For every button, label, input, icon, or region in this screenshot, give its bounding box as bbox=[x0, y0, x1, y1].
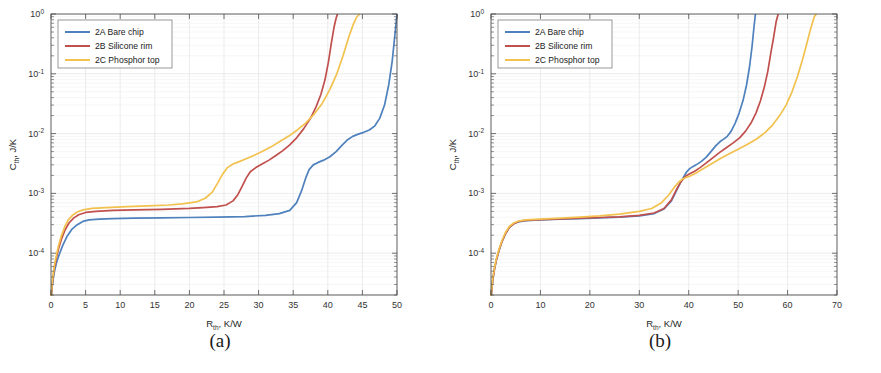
x-tick-label: 0 bbox=[48, 300, 53, 310]
x-axis-label: Rth, K/W bbox=[646, 318, 682, 331]
x-tick-label: 5 bbox=[83, 300, 88, 310]
top-mask bbox=[440, 0, 880, 14]
panel-a-caption: (a) bbox=[0, 330, 440, 352]
x-tick-label: 30 bbox=[634, 300, 644, 310]
x-tick-label: 0 bbox=[488, 300, 493, 310]
x-tick-label: 40 bbox=[684, 300, 694, 310]
figure-root: 0510152025303540455010-410-310-210-1100R… bbox=[0, 0, 881, 373]
y-tick-label: 10-4 bbox=[28, 247, 44, 258]
plot-a-container: 0510152025303540455010-410-310-210-1100R… bbox=[0, 0, 440, 335]
top-mask bbox=[0, 0, 440, 14]
x-tick-label: 20 bbox=[184, 300, 194, 310]
y-tick-label: 10-1 bbox=[468, 68, 484, 79]
x-tick-label: 60 bbox=[783, 300, 793, 310]
x-tick-label: 10 bbox=[115, 300, 125, 310]
y-tick-label: 100 bbox=[470, 8, 484, 19]
x-axis-label: Rth, K/W bbox=[206, 318, 242, 331]
x-tick-label: 45 bbox=[357, 300, 367, 310]
y-axis-label: Cth, J/K bbox=[447, 138, 460, 170]
panel-b: 01020304050607010-410-310-210-1100Rth, K… bbox=[440, 0, 880, 373]
x-tick-label: 10 bbox=[535, 300, 545, 310]
plot-a-svg: 0510152025303540455010-410-310-210-1100R… bbox=[0, 0, 440, 335]
x-tick-label: 30 bbox=[254, 300, 264, 310]
legend-label-3: 2C Phosphor top bbox=[535, 55, 600, 65]
legend-label-1: 2A Bare chip bbox=[535, 27, 584, 37]
y-axis-label: Cth, J/K bbox=[7, 138, 20, 170]
y-tick-label: 10-3 bbox=[28, 187, 44, 198]
x-tick-label: 40 bbox=[323, 300, 333, 310]
x-tick-label: 35 bbox=[288, 300, 298, 310]
panel-b-caption: (b) bbox=[440, 330, 880, 352]
plot-b-svg: 01020304050607010-410-310-210-1100Rth, K… bbox=[440, 0, 880, 335]
y-tick-label: 10-2 bbox=[28, 127, 44, 138]
legend: 2A Bare chip2B Silicone rim2C Phosphor t… bbox=[498, 20, 612, 68]
y-tick-label: 10-4 bbox=[468, 247, 484, 258]
x-tick-label: 50 bbox=[392, 300, 402, 310]
legend-label-3: 2C Phosphor top bbox=[95, 55, 160, 65]
x-tick-label: 25 bbox=[219, 300, 229, 310]
legend-label-2: 2B Silicone rim bbox=[95, 41, 152, 51]
x-tick-label: 15 bbox=[150, 300, 160, 310]
y-tick-label: 10-2 bbox=[468, 127, 484, 138]
x-tick-label: 50 bbox=[733, 300, 743, 310]
legend-label-2: 2B Silicone rim bbox=[535, 41, 592, 51]
x-tick-label: 20 bbox=[585, 300, 595, 310]
x-tick-label: 70 bbox=[832, 300, 842, 310]
legend: 2A Bare chip2B Silicone rim2C Phosphor t… bbox=[58, 20, 172, 68]
y-tick-label: 10-3 bbox=[468, 187, 484, 198]
y-tick-label: 10-1 bbox=[28, 68, 44, 79]
panel-a: 0510152025303540455010-410-310-210-1100R… bbox=[0, 0, 440, 373]
legend-label-1: 2A Bare chip bbox=[95, 27, 144, 37]
y-tick-label: 100 bbox=[30, 8, 44, 19]
plot-b-container: 01020304050607010-410-310-210-1100Rth, K… bbox=[440, 0, 880, 335]
